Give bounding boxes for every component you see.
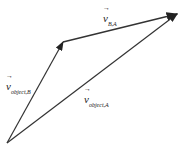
- vector-object-a-arrow: [7, 14, 177, 143]
- label-v-object-b: vobject,B: [6, 76, 31, 95]
- label-v-object-a: vobject,A: [84, 89, 109, 108]
- label-v-b-a: vB,A: [103, 8, 117, 27]
- vector-b-a-arrow: [63, 14, 177, 42]
